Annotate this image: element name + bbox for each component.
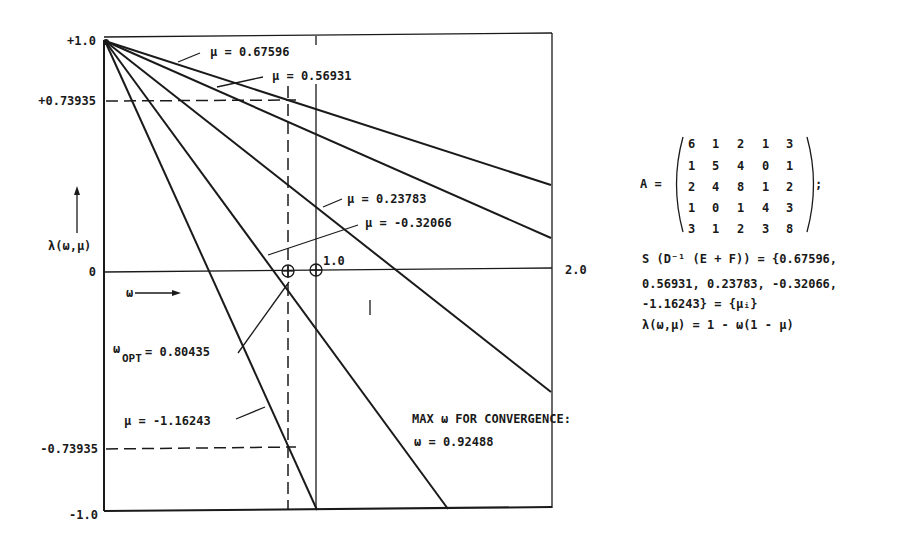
svg-text:ω: ω: [113, 342, 120, 356]
svg-text:3: 3: [786, 201, 793, 215]
y-label-top: +1.0: [67, 34, 96, 48]
formula-line: λ(ω,μ) = 1 - ω(1 - μ): [642, 318, 794, 332]
label-mu2: μ = 0.56931: [272, 69, 351, 83]
spectrum-line3: -1.16243} = {μᵢ}: [642, 297, 758, 311]
label-mu5: μ = -1.16243: [124, 414, 211, 428]
svg-text:5: 5: [712, 159, 719, 173]
y-axis-title: λ(ω,μ): [48, 239, 91, 253]
matrix-panel: A = ; 6 1 2 1 3 1 5 4 0 1 2 4 8 1 2 1 0 …: [640, 137, 822, 236]
svg-text:1: 1: [712, 222, 719, 236]
dash-lower: [106, 447, 296, 449]
svg-text:2: 2: [737, 222, 744, 236]
max-omega-label: MAX ω FOR CONVERGENCE:: [412, 412, 571, 426]
dash-upper: [106, 100, 296, 101]
svg-text:3: 3: [786, 137, 793, 151]
label-mu4: μ = -0.32066: [365, 216, 452, 230]
spectrum-line1: S (D⁻¹ (E + F)) = {0.67596,: [642, 252, 837, 266]
marker-omega-one: [310, 264, 322, 276]
svg-text:1: 1: [786, 159, 793, 173]
svg-text:2: 2: [737, 137, 744, 151]
x-label-one: 1.0: [323, 254, 345, 268]
line-mu-neg1.16243: [105, 41, 317, 510]
label-mu1: μ = 0.67596: [210, 45, 289, 59]
max-omega-value: ω = 0.92488: [414, 435, 493, 449]
y-label-zero: 0: [89, 265, 96, 279]
omega-opt-annotation: ω OPT = 0.80435: [113, 342, 210, 365]
spectrum-line2: 0.56931, 0.23783, -0.32066,: [642, 277, 837, 291]
chart-canvas: +1.0 +0.73935 0 -0.73935 -1.0 1.0 2.0 λ(…: [0, 0, 900, 545]
svg-text:6: 6: [688, 137, 695, 151]
y-label-upper-dash: +0.73935: [38, 94, 96, 108]
line-mu-0.67596: [105, 41, 551, 185]
svg-text:2: 2: [786, 180, 793, 194]
zero-axis: [104, 268, 552, 272]
svg-text:4: 4: [762, 201, 769, 215]
y-label-bottom: -1.0: [69, 508, 98, 522]
svg-text:8: 8: [737, 180, 744, 194]
svg-text:3: 3: [762, 222, 769, 236]
svg-text:1: 1: [762, 180, 769, 194]
svg-text:1: 1: [688, 201, 695, 215]
svg-text:0: 0: [762, 159, 769, 173]
label-mu3: μ = 0.23783: [347, 192, 426, 206]
svg-text:8: 8: [786, 222, 793, 236]
x-axis-arrow: [135, 290, 181, 296]
svg-text:1: 1: [737, 201, 744, 215]
matrix-label: A =: [640, 177, 662, 191]
x-label-two: 2.0: [565, 263, 587, 277]
svg-text:3: 3: [688, 222, 695, 236]
matrix-suffix: ;: [815, 177, 822, 191]
svg-text:2: 2: [688, 180, 695, 194]
y-axis-arrow: [74, 186, 80, 233]
line-mu-0.23783: [105, 41, 551, 392]
svg-text:1: 1: [688, 159, 695, 173]
svg-text:OPT: OPT: [122, 352, 142, 365]
svg-text:4: 4: [737, 159, 744, 173]
svg-text:4: 4: [712, 180, 719, 194]
svg-text:= 0.80435: = 0.80435: [145, 345, 210, 359]
line-mu-neg0.32066: [105, 41, 448, 509]
y-label-lower-dash: -0.73935: [40, 442, 98, 456]
marker-omega-opt: [282, 265, 294, 277]
svg-text:0: 0: [712, 201, 719, 215]
x-axis-title: ω: [126, 286, 133, 300]
svg-text:1: 1: [762, 137, 769, 151]
origin-point: [103, 39, 109, 45]
svg-text:1: 1: [712, 137, 719, 151]
